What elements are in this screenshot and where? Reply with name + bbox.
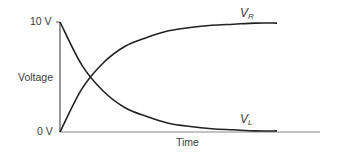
y-tick-label-top: 10 V [30, 15, 52, 27]
x-axis-label: Time [176, 136, 199, 148]
vl-label: VL [240, 112, 252, 127]
vr-label: VR [240, 6, 254, 21]
y-axis-label: Voltage [18, 71, 53, 83]
y-tick-label-bottom: 0 V [37, 125, 53, 137]
